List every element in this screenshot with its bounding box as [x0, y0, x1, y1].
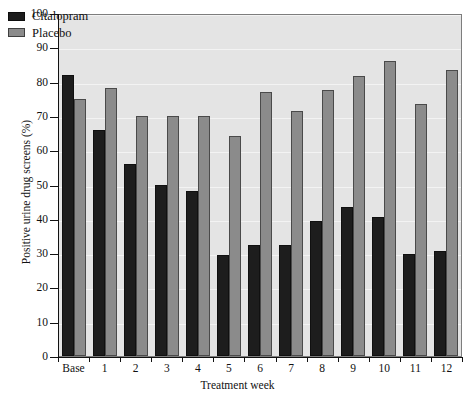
x-axis-tick-label: 11 — [410, 363, 421, 375]
bar-citalopram — [310, 221, 322, 356]
bar-chart: Positive urine drug screens (%) 01020304… — [0, 0, 475, 408]
x-axis-tick — [213, 357, 214, 362]
y-axis-tick-label: 60 — [14, 145, 48, 157]
x-axis-tick-label: 2 — [133, 363, 139, 375]
legend-label-placebo: Placebo — [32, 27, 72, 40]
bar-placebo — [260, 92, 272, 356]
bar-citalopram — [217, 255, 229, 356]
bar-placebo — [322, 90, 334, 356]
bar-group — [275, 15, 306, 356]
x-axis-tick — [462, 357, 463, 362]
y-axis-tick — [50, 151, 58, 152]
bar-citalopram — [93, 130, 105, 356]
x-axis-tick-label: 10 — [379, 363, 391, 375]
x-axis-tick — [369, 357, 370, 362]
bar-citalopram — [62, 75, 74, 356]
bar-groups — [59, 15, 461, 356]
bar-group — [245, 15, 276, 356]
x-axis-tick — [89, 357, 90, 362]
y-axis-tick-label: 70 — [14, 111, 48, 123]
bar-placebo — [384, 61, 396, 356]
x-axis-title: Treatment week — [0, 379, 475, 391]
bar-group — [399, 15, 430, 356]
x-axis-line — [58, 357, 463, 358]
x-axis-tick-label: 3 — [164, 363, 170, 375]
y-axis-tick — [50, 220, 58, 221]
bar-group — [368, 15, 399, 356]
y-axis-tick — [50, 323, 58, 324]
bar-placebo — [415, 104, 427, 356]
bar-citalopram — [155, 185, 167, 357]
x-axis-tick-label: 5 — [226, 363, 232, 375]
bar-citalopram — [403, 254, 415, 356]
bar-placebo — [105, 88, 117, 356]
bar-citalopram — [124, 164, 136, 356]
x-axis-tick — [400, 357, 401, 362]
bar-citalopram — [372, 217, 384, 356]
y-axis-tick-label: 0 — [14, 351, 48, 363]
y-axis-tick — [50, 186, 58, 187]
bar-group — [90, 15, 121, 356]
x-axis-tick — [276, 357, 277, 362]
y-axis-line — [58, 14, 59, 358]
plot-area — [58, 14, 462, 357]
bar-group — [337, 15, 368, 356]
y-axis-tick-label: 10 — [14, 317, 48, 329]
y-axis-tick-label: 20 — [14, 282, 48, 294]
x-axis-tick — [151, 357, 152, 362]
bar-placebo — [353, 76, 365, 356]
x-axis-tick — [307, 357, 308, 362]
bar-citalopram — [341, 207, 353, 356]
bar-citalopram — [434, 251, 446, 356]
legend-label-citalopram: Citalopram — [32, 10, 88, 23]
bar-placebo — [167, 116, 179, 356]
x-axis-tick-label: 1 — [102, 363, 108, 375]
y-axis-tick-label: 30 — [14, 248, 48, 260]
y-axis-tick — [50, 357, 58, 358]
y-axis-tick — [50, 48, 58, 49]
y-axis-tick-label: 50 — [14, 180, 48, 192]
x-axis-tick-label: 6 — [257, 363, 263, 375]
x-axis-tick-label: 12 — [441, 363, 453, 375]
x-axis-tick-label: 7 — [288, 363, 294, 375]
y-axis-tick — [50, 117, 58, 118]
bar-placebo — [446, 70, 458, 356]
legend: Citalopram Placebo — [8, 10, 88, 39]
y-axis-tick — [50, 254, 58, 255]
y-axis-tick-label: 80 — [14, 77, 48, 89]
y-axis-tick — [50, 83, 58, 84]
x-axis-tick-label: 8 — [319, 363, 325, 375]
x-axis-tick — [58, 357, 59, 362]
bar-group — [152, 15, 183, 356]
y-axis-tick — [50, 288, 58, 289]
legend-swatch-icon-placebo — [8, 28, 25, 37]
legend-item-citalopram: Citalopram — [8, 10, 88, 23]
bar-group — [430, 15, 461, 356]
x-axis-tick — [120, 357, 121, 362]
bar-placebo — [74, 99, 86, 356]
x-axis-tick — [338, 357, 339, 362]
bar-citalopram — [279, 245, 291, 356]
legend-item-placebo: Placebo — [8, 27, 88, 40]
bar-placebo — [291, 111, 303, 356]
x-axis-tick — [244, 357, 245, 362]
legend-swatch-icon-citalopram — [8, 12, 25, 21]
bar-group — [121, 15, 152, 356]
y-axis-tick-label: 40 — [14, 214, 48, 226]
bar-group — [183, 15, 214, 356]
x-axis-tick — [182, 357, 183, 362]
y-axis-tick-label: 90 — [14, 42, 48, 54]
bar-citalopram — [186, 191, 198, 356]
bar-group — [214, 15, 245, 356]
bar-citalopram — [248, 245, 260, 356]
x-axis-tick-label: Base — [62, 363, 84, 375]
bar-placebo — [136, 116, 148, 356]
x-axis-tick-label: 9 — [350, 363, 356, 375]
x-axis-tick — [431, 357, 432, 362]
bar-placebo — [198, 116, 210, 356]
bar-group — [59, 15, 90, 356]
x-axis-tick-label: 4 — [195, 363, 201, 375]
bar-placebo — [229, 136, 241, 356]
bar-group — [306, 15, 337, 356]
